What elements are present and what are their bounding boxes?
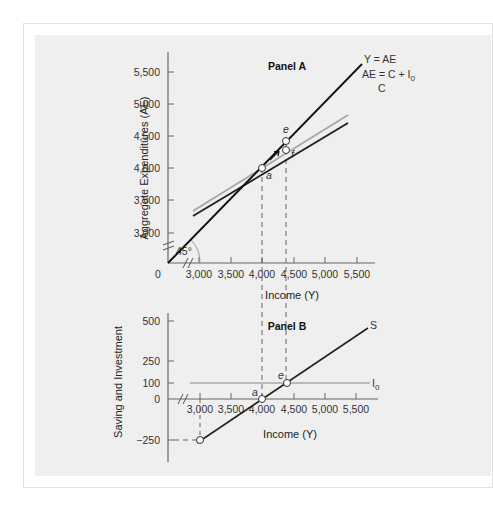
line-ae — [193, 115, 348, 211]
panel-a-origin-label: 0 — [155, 268, 161, 280]
panel-b-title: Panel B — [268, 320, 307, 332]
panel-a-title: Panel A — [268, 60, 307, 72]
panel-b-ytick: 500 — [142, 315, 160, 327]
panel-a-ytick: 5,000 — [134, 98, 160, 110]
panel-b-ytick: 250 — [142, 355, 160, 367]
panel-a-xtick: 5,000 — [312, 268, 338, 280]
legend-s: S — [370, 319, 377, 331]
panel-a-ytick: 3,000 — [134, 227, 160, 239]
panel-a-xtick: 5,500 — [344, 268, 370, 280]
panel-a-xtick: 4,500 — [281, 268, 307, 280]
legend-c: C — [378, 82, 386, 94]
line-y-ae — [168, 64, 362, 263]
panel-a-xtick: 3,000 — [186, 268, 212, 280]
point-a-b — [259, 396, 266, 403]
point-e-label: e — [283, 123, 289, 135]
panel-a-x-axis-label: Income (Y) — [265, 289, 319, 301]
point-a-label: a — [266, 169, 272, 181]
panel-b-ytick: 100 — [142, 377, 160, 389]
panel-b-y-axis-label: Saving and Investment — [112, 326, 124, 438]
panel-b-ytick: −250 — [136, 434, 160, 446]
panel-a-ytick: 5,500 — [134, 66, 160, 78]
point-e-b-label: e — [278, 369, 284, 381]
panel-a-ytick: 3,500 — [134, 194, 160, 206]
point-e — [283, 138, 290, 145]
point-f — [283, 147, 290, 154]
panel-b-ytick: 0 — [154, 393, 160, 405]
panel-a-xtick: 3,500 — [218, 268, 244, 280]
line-s — [197, 328, 368, 443]
point-a — [259, 165, 266, 172]
panel-a: Aggregate Expenditures (AE) 5,500 5,000 … — [134, 52, 416, 395]
panel-b-xtick: 5,000 — [312, 403, 338, 415]
panel-a-ytick: 4,000 — [134, 162, 160, 174]
point-a-b-label: a — [252, 386, 258, 398]
legend-y-ae: Y = AE — [364, 53, 396, 65]
panel-b-x-axis-label: Income (Y) — [263, 428, 317, 440]
point-neg250 — [197, 437, 204, 444]
panel-b: Saving and Investment 500 250 100 0 −250… — [112, 313, 380, 462]
panel-b-xtick: 4,500 — [281, 403, 307, 415]
point-e-b — [284, 380, 291, 387]
legend-i0: I0 — [372, 377, 380, 392]
panel-b-xtick: 5,500 — [343, 403, 369, 415]
panel-a-ytick: 4,500 — [134, 130, 160, 142]
legend-ae-c-i: AE = C + I0 — [362, 68, 415, 83]
